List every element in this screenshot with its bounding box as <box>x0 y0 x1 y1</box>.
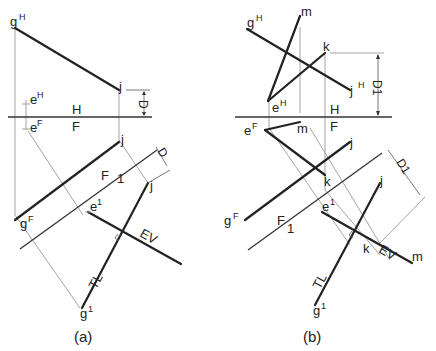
line-gj-top <box>15 28 119 90</box>
label-j-aux-b: j <box>379 173 383 188</box>
label-gF: g <box>20 216 27 231</box>
label-k-aux: k <box>363 241 370 256</box>
annot-ev: EV <box>138 226 161 248</box>
label-k-top: k <box>323 39 330 54</box>
fold-label-F-aux-b: F <box>277 213 285 228</box>
descriptive-geometry-figure: g H j e H e F j g F e 1 j g 1 H F F 1 D … <box>0 0 436 351</box>
dim-ext-aux-b <box>380 197 425 243</box>
label-jH: j <box>349 83 353 98</box>
label-j-front: j <box>120 132 124 147</box>
annot-tl: TL <box>85 271 105 291</box>
fold-label-F-aux: F <box>101 168 109 183</box>
svg-text:H: H <box>37 90 44 100</box>
fold-label-F: F <box>72 119 80 134</box>
label-j-top: j <box>118 79 122 94</box>
annot-tl-b: TL <box>309 271 329 291</box>
svg-text:H: H <box>19 12 26 22</box>
labels-a: g H j e H e F j g F e 1 j g 1 H F F 1 D … <box>10 12 171 345</box>
label-j-aux: j <box>149 178 153 193</box>
svg-text:1: 1 <box>88 304 93 314</box>
line-ev <box>88 212 181 264</box>
svg-text:F: F <box>233 211 239 221</box>
label-m-aux: m <box>412 249 423 264</box>
fold-label-H-b: H <box>330 102 339 117</box>
label-m-front: m <box>297 121 308 136</box>
fold-label-1: 1 <box>117 171 124 186</box>
label-e1-b: e <box>322 199 329 214</box>
dim-label-aux-b: D1 <box>393 156 413 177</box>
svg-text:F: F <box>28 214 34 224</box>
label-g1-b: g <box>313 303 320 318</box>
fold-label-H: H <box>72 102 81 117</box>
label-gH-b: g <box>247 15 254 30</box>
label-g1: g <box>80 306 87 321</box>
svg-text:F: F <box>37 118 43 128</box>
svg-text:H: H <box>358 80 365 90</box>
label-gH: g <box>10 14 17 29</box>
svg-text:F: F <box>252 121 258 131</box>
panel-a <box>8 28 181 308</box>
label-k-front: k <box>324 174 331 189</box>
label-m-top: m <box>301 4 312 19</box>
svg-text:1: 1 <box>330 197 335 207</box>
panel-b <box>235 16 425 305</box>
label-eF-b: e <box>244 123 251 138</box>
projector-e-aux <box>28 131 83 215</box>
caption-b: (b) <box>303 328 321 345</box>
svg-text:H: H <box>256 13 263 23</box>
dim-label-top-b: D1 <box>370 80 384 96</box>
label-eH-b: e <box>272 100 279 115</box>
dim-label-top: D <box>136 100 150 109</box>
line-em-front <box>265 122 300 130</box>
caption-a: (a) <box>74 328 92 345</box>
line-gj-top-b <box>247 29 350 90</box>
svg-text:1: 1 <box>97 197 102 207</box>
svg-text:H: H <box>280 98 287 108</box>
fold-label-1-b: 1 <box>287 221 294 236</box>
label-gF-b: g <box>224 213 231 228</box>
label-j-front-b: j <box>349 135 353 150</box>
fold-label-F-b: F <box>330 119 338 134</box>
svg-text:1: 1 <box>321 301 326 311</box>
